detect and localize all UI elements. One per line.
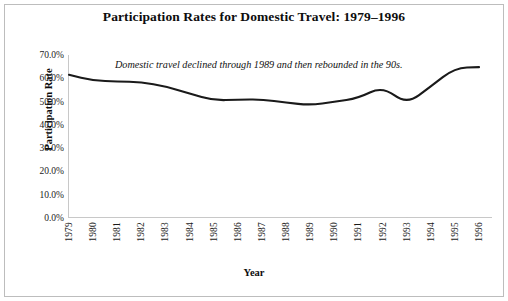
x-tick-label: 1989 bbox=[305, 222, 315, 242]
x-tick-label: 1981 bbox=[112, 222, 122, 242]
x-tick-label: 1988 bbox=[281, 222, 291, 242]
x-tick-label: 1979 bbox=[64, 222, 74, 242]
x-tick-label: 1995 bbox=[450, 222, 460, 242]
x-tick-label: 1984 bbox=[185, 222, 195, 242]
x-tick-label: 1993 bbox=[402, 222, 412, 242]
x-tick-label: 1982 bbox=[136, 222, 146, 242]
y-axis-title: Participation Rate bbox=[43, 50, 54, 170]
x-tick-label: 1986 bbox=[233, 222, 243, 242]
chart-annotation: Domestic travel declined through 1989 an… bbox=[115, 59, 403, 70]
x-tick-label: 1996 bbox=[474, 222, 484, 242]
x-tick-label: 1983 bbox=[160, 222, 170, 242]
x-axis-title: Year bbox=[0, 267, 508, 278]
x-tick-label: 1985 bbox=[209, 222, 219, 242]
x-tick-label: 1990 bbox=[329, 222, 339, 242]
x-tick-label: 1987 bbox=[257, 222, 267, 242]
x-axis-tick-labels: 1979198019811982198319841985198619871988… bbox=[0, 0, 508, 301]
x-tick-label: 1994 bbox=[426, 222, 436, 242]
x-tick-label: 1991 bbox=[353, 222, 363, 242]
chart-screenshot: Participation Rates for Domestic Travel:… bbox=[0, 0, 508, 301]
x-tick-label: 1980 bbox=[88, 222, 98, 242]
x-tick-label: 1992 bbox=[378, 222, 388, 242]
